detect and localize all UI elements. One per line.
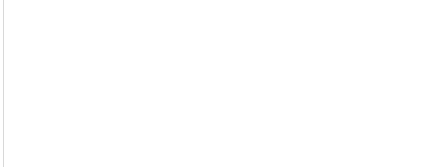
gradient-bar-top	[13, 5, 378, 37]
page-edge-line	[3, 0, 4, 167]
gradient-bar-middle	[13, 57, 378, 89]
gradient-bar-bottom	[13, 112, 378, 144]
